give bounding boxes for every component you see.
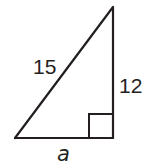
right-triangle-diagram: 15 12 a: [0, 0, 144, 167]
triangle: [14, 7, 114, 138]
hypotenuse-line: [15, 7, 113, 138]
hypotenuse-label: 15: [33, 55, 56, 78]
vertical-leg-label: 12: [119, 74, 142, 97]
horizontal-leg-label: a: [57, 142, 70, 166]
right-angle-marker: [89, 114, 113, 138]
